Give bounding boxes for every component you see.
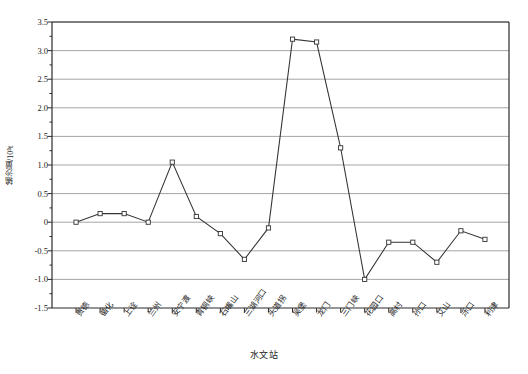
x-axis-tick-label: 上诠	[121, 299, 139, 318]
x-axis-tick-label: 三门峡	[338, 292, 361, 318]
x-axis-tick-label: 龙门	[314, 299, 332, 318]
x-axis-tick-label: 石嘴山	[217, 292, 240, 318]
chart-figure: 输沙量/10⁸t 3.53.02.52.01.51.00.50-0.5-1.0-…	[0, 0, 528, 374]
x-axis-tick-label: 三湖河口	[241, 286, 268, 319]
x-axis-tick-label: 艾山	[434, 299, 452, 318]
x-axis-tick-label: 兰州	[145, 299, 163, 318]
x-axis-tick-label: 循化	[97, 299, 115, 318]
x-axis-title: 水文站	[0, 348, 528, 361]
x-axis-tick-label: 泺口	[458, 299, 476, 318]
x-axis-tick-labels: 贵德循化上诠兰州安宁渡青铜峡石嘴山三湖河口头道拐吴堡龙门三门峡花园口高村孙口艾山…	[0, 0, 528, 374]
x-axis-tick-label: 青铜峡	[193, 292, 216, 318]
x-axis-tick-label: 安宁渡	[169, 292, 192, 318]
x-axis-tick-label: 贵德	[73, 299, 91, 318]
x-axis-tick-label: 孙口	[410, 299, 428, 318]
x-axis-tick-label: 花园口	[362, 292, 385, 318]
x-axis-tick-label: 利津	[482, 299, 500, 318]
x-axis-tick-label: 吴堡	[290, 299, 308, 318]
x-axis-tick-label: 头道拐	[265, 292, 288, 318]
x-axis-tick-label: 高村	[386, 299, 404, 318]
